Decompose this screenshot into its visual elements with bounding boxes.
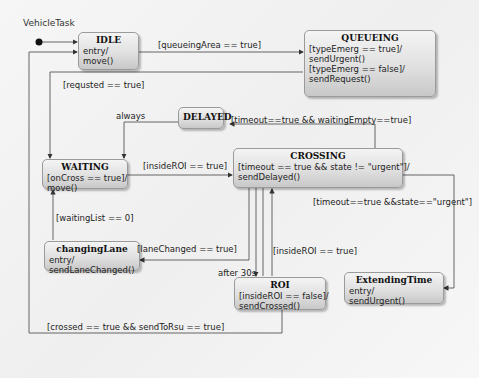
- state-name: IDLE: [83, 35, 134, 46]
- state-delayed[interactable]: DELAYED: [178, 107, 224, 129]
- transition-label-queueing-waiting: [requsted == true]: [63, 80, 144, 90]
- state-body: entry/ sendUrgent(): [349, 286, 439, 306]
- state-changing-lane[interactable]: changingLane entry/ sendLaneChanged(): [44, 241, 140, 271]
- state-crossing[interactable]: CROSSING [timeout == true && state != "u…: [233, 148, 403, 188]
- state-body: [onCross == true]/ move(): [47, 173, 123, 193]
- state-body: [insideROI == false]/ sendCrossed(): [239, 291, 321, 311]
- transition-label-crossing-changing: [laneChanged == true]: [137, 244, 237, 254]
- diagram-canvas: VehicleTask IDLE entry/ move() QUEUEING …: [0, 0, 479, 378]
- transition-label-crossing-delayed: [timeout==true && waitingEmpty==true]: [231, 115, 411, 125]
- state-queueing[interactable]: QUEUEING [typeEmerg == true]/ sendUrgent…: [304, 30, 436, 97]
- transition-label-crossing-roi: after 30s: [218, 268, 256, 278]
- transition-label-waiting-crossing: [insideROI == true]: [143, 161, 227, 171]
- transition-label-delayed-waiting: always: [116, 111, 145, 121]
- state-name: DELAYED: [183, 112, 219, 123]
- state-roi[interactable]: ROI [insideROI == false]/ sendCrossed(): [234, 277, 326, 310]
- transition-label-crossing-extending: [timeout==true &&state=="urgent"]: [313, 197, 472, 207]
- transition-label-idle-queueing: [queueingArea == true]: [158, 40, 261, 50]
- state-body: [typeEmerg == true]/ sendUrgent() [typeE…: [309, 44, 431, 84]
- state-name: changingLane: [49, 244, 135, 255]
- state-extending-time[interactable]: ExtendingTime entry/ sendUrgent(): [344, 272, 444, 304]
- state-name: QUEUEING: [309, 33, 431, 44]
- state-body: [timeout == true && state != "urgent"]/ …: [238, 162, 398, 182]
- transition-label-changing-waiting: [waitingList == 0]: [56, 213, 134, 223]
- diagram-title: VehicleTask: [23, 18, 75, 28]
- state-idle[interactable]: IDLE entry/ move(): [78, 32, 139, 70]
- transition-label-roi-idle: [crossed == true && sendToRsu == true]: [47, 322, 224, 332]
- initial-state-dot: [36, 39, 43, 46]
- state-name: CROSSING: [238, 151, 398, 162]
- transition-label-roi-crossing: [insideROI == true]: [273, 246, 357, 256]
- state-name: ExtendingTime: [349, 275, 439, 286]
- state-waiting[interactable]: WAITING [onCross == true]/ move(): [42, 159, 128, 189]
- state-body: entry/ sendLaneChanged(): [49, 255, 135, 275]
- state-name: ROI: [239, 280, 321, 291]
- state-body: entry/ move(): [83, 46, 134, 66]
- state-name: WAITING: [47, 162, 123, 173]
